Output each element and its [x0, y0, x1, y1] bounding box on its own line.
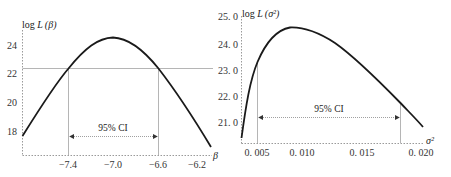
left-ci-label: 95% CI — [98, 123, 127, 133]
left-ytick: 24 — [7, 40, 17, 51]
right-ytick: 21. 0 — [218, 117, 238, 128]
left-y-axis-title: log L(β) — [22, 19, 57, 31]
right-chart: 25. 0 24. 0 23. 0 22. 0 21. 0 0. 005 0. … — [218, 8, 435, 158]
left-xtick: −6.2 — [188, 159, 206, 170]
left-ytick: 22 — [7, 68, 17, 79]
right-xtick: 0. 020 — [409, 147, 434, 158]
right-xtick: 0. 010 — [290, 147, 315, 158]
left-xtick: −7.0 — [104, 159, 122, 170]
left-ytick: 20 — [7, 97, 17, 108]
right-ci-label: 95% CI — [314, 104, 343, 114]
right-x-axis-title: σ² — [426, 135, 435, 146]
left-xtick: −7.4 — [59, 159, 77, 170]
left-xtick: −6.6 — [149, 159, 167, 170]
left-ytick: 18 — [7, 126, 17, 137]
left-x-axis-title: β — [212, 150, 218, 161]
right-ytick: 24. 0 — [218, 39, 238, 50]
right-likelihood-curve — [242, 27, 424, 138]
right-y-axis-title: log L(σ²) — [242, 8, 280, 20]
left-chart: 24 22 20 18 −7.4 −7.0 −6.6 −6.2 log L(β)… — [7, 19, 218, 170]
right-xtick: 0. 015 — [350, 147, 375, 158]
right-ytick: 23. 0 — [218, 65, 238, 76]
right-xtick: 0. 005 — [245, 147, 270, 158]
figure: 24 22 20 18 −7.4 −7.0 −6.6 −6.2 log L(β)… — [0, 0, 451, 177]
right-ytick: 25. 0 — [218, 11, 238, 22]
right-ytick: 22. 0 — [218, 91, 238, 102]
